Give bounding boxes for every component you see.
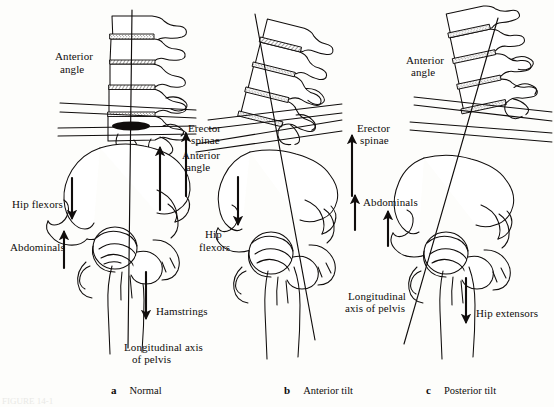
panel-a-abdominals-label: Abdominals — [10, 241, 65, 254]
panel-c-erector-spinae-label-line2: spinae — [360, 134, 389, 147]
panel-b-letter: b — [284, 384, 290, 396]
panel-b-hip-flexors-label-line2: flexors — [199, 241, 230, 254]
panel-c-letter: c — [426, 384, 431, 396]
panel-a-caption: aNormal — [100, 372, 162, 407]
panel-b-anterior-angle-label-line1: Anterior — [182, 149, 220, 162]
panel-b-abdominals-label: Abdominals — [363, 196, 418, 209]
panel-a-longitudinal-axis-label-line1: Longitudinal axis — [124, 341, 203, 354]
panel-b-erector-spinae-label-line1: Erector — [188, 122, 221, 135]
panel-b-name: Anterior tilt — [303, 385, 353, 396]
panel-a-anterior-angle-label-line2: angle — [60, 63, 84, 76]
panel-a-name: Normal — [130, 385, 162, 396]
panel-b-pelvis — [216, 150, 338, 359]
panel-c-caption: cPosterior tilt — [415, 372, 496, 407]
panel-b-erector-spinae-label-line2: spinae — [191, 134, 220, 147]
panel-b-longitudinal-axis-label-line2: axis of pelvis — [345, 302, 405, 315]
panel-a-hamstrings-label: Hamstrings — [156, 305, 208, 318]
panel-c-anterior-angle-label-line1: Anterior — [406, 54, 444, 67]
panel-a-longitudinal-axis-label-line2: of pelvis — [132, 353, 171, 366]
panel-a-letter: a — [111, 384, 117, 396]
panel-b-anterior-angle-label-line2: angle — [186, 161, 210, 174]
panel-a-anterior-angle-label-line1: Anterior — [55, 50, 93, 63]
panel-c-pelvis — [391, 155, 514, 359]
panel-c-anterior-angle-label-line2: angle — [411, 66, 435, 79]
panel-c-erector-spinae-label-line1: Erector — [357, 122, 390, 135]
panel-c-hip-extensors-label: Hip extensors — [476, 307, 538, 320]
panel-b-longitudinal-axis-label-line1: Longitudinal — [348, 290, 406, 303]
panel-b-caption: bAnterior tilt — [273, 372, 353, 407]
panel-b-art — [234, 18, 340, 151]
panel-c-name: Posterior tilt — [444, 385, 496, 396]
figure-number-cutoff: FIGURE 14-1 — [2, 396, 53, 406]
panel-a-hip-flexors-label: Hip flexors — [12, 198, 63, 211]
panel-b-hip-flexors-label-line1: Hip — [205, 228, 222, 241]
pelvic-tilt-figure: Anterior angle Hip flexors Abdominals Ha… — [0, 0, 554, 407]
